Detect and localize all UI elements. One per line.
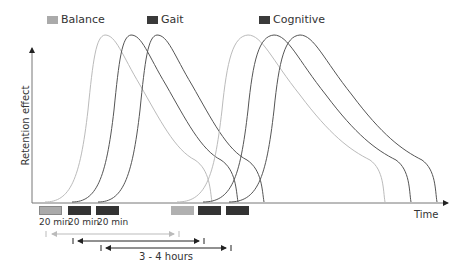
y-axis-label: Retention effect	[20, 71, 31, 181]
gait-curve-1	[72, 35, 238, 202]
retention-diagram	[0, 0, 465, 270]
balance-curve-2	[177, 35, 385, 202]
x-axis-label: Time	[414, 209, 438, 220]
cognitive-curve-2	[229, 35, 437, 202]
cognitive-session-2	[226, 206, 249, 215]
balance-session-1	[39, 206, 62, 215]
cognitive-curve-1	[98, 35, 264, 202]
gait-session-1	[68, 206, 91, 215]
cognitive-duration: 20 min	[97, 217, 128, 227]
balance-session-2	[171, 206, 194, 215]
interval-label: 3 - 4 hours	[139, 251, 193, 262]
gait-duration: 20 min	[68, 217, 99, 227]
cognitive-session-1	[96, 206, 119, 215]
balance-curve-1	[45, 35, 212, 202]
gait-session-2	[198, 206, 221, 215]
gait-curve-2	[203, 35, 411, 202]
balance-duration: 20 min	[39, 217, 70, 227]
